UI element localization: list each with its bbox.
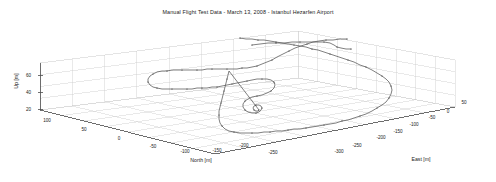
east-tick-label: 50 [461, 100, 467, 105]
trajectory-marker [241, 67, 242, 68]
floor-grid-line [201, 90, 365, 125]
north-tick-label: 100 [43, 118, 51, 123]
trajectory-marker [171, 88, 172, 89]
trajectory-marker [347, 59, 348, 60]
trajectory-marker [365, 66, 366, 67]
east-tick-label: -300 [334, 149, 344, 154]
trajectory-marker [305, 127, 306, 128]
trajectory-marker [201, 87, 202, 88]
trajectory-marker [287, 129, 288, 130]
axis-title-up: Up [m] [13, 59, 19, 103]
trajectory-marker [251, 44, 252, 45]
plot-3d-axes: 100500-50-100-150-200-250-300-250-200-15… [0, 0, 496, 182]
north-tick-label: 50 [81, 127, 87, 132]
trajectory-marker [341, 120, 342, 121]
up-tick-label: 60 [26, 73, 32, 78]
trajectory-marker [346, 38, 347, 39]
axis-title-north: North [m] [165, 157, 237, 163]
tick-labels: 100500-50-100-150-200-250-300-250-200-15… [26, 73, 467, 155]
trajectory-marker [216, 86, 217, 87]
trajectory-marker [255, 112, 256, 113]
trajectory-line [148, 38, 392, 133]
trajectory-marker [323, 124, 324, 125]
trajectory-marker [226, 68, 227, 69]
trajectory-marker [233, 131, 234, 132]
north-tick-label: -100 [180, 149, 190, 154]
trajectory-marker [359, 115, 360, 116]
north-tick-label: 0 [118, 136, 121, 141]
trajectory-marker [255, 104, 256, 105]
east-tick-label: -250 [352, 143, 362, 148]
trajectory-marker [376, 107, 377, 108]
trajectory-marker [390, 85, 391, 86]
trajectory-marker [257, 39, 258, 40]
trajectory-marker [350, 48, 351, 49]
trajectory-marker [152, 73, 153, 74]
trajectory-marker [311, 48, 312, 49]
trajectory-marker [166, 70, 167, 71]
trajectory-marker [288, 50, 289, 51]
trajectory-marker [306, 43, 307, 44]
trajectory-marker [329, 53, 330, 54]
trajectory-marker [251, 132, 252, 133]
trajectory-marker [269, 131, 270, 132]
trajectory-marker [299, 41, 300, 42]
trajectory-marker [261, 78, 262, 79]
grid-lines [40, 31, 455, 154]
east-tick-label: 0 [447, 109, 450, 114]
trajectory-marker [325, 39, 326, 40]
east-tick-label: -150 [393, 129, 403, 134]
north-tick-label: -150 [212, 148, 222, 153]
trajectory-marker [381, 75, 382, 76]
trajectory-marker [181, 69, 182, 70]
east-tick-label: -200 [376, 135, 386, 140]
flight-trajectory [148, 38, 392, 133]
trajectory-marker [223, 90, 224, 91]
floor-grid-line [105, 102, 276, 142]
trajectory-marker [246, 80, 247, 81]
trajectory-marker [258, 109, 259, 110]
north-tick-label: -250 [268, 150, 278, 155]
trajectory-marker [186, 88, 187, 89]
trajectory-marker [273, 81, 274, 82]
trajectory-marker [256, 65, 257, 66]
trajectory-marker [226, 78, 227, 79]
trajectory-marker [336, 46, 337, 47]
trajectory-marker [244, 100, 245, 101]
floor-grid-line [169, 94, 335, 131]
north-axis-spine [40, 110, 215, 154]
trajectory-marker [388, 97, 389, 98]
axis-spines [38, 63, 455, 154]
trajectory-marker [218, 114, 219, 115]
trajectory-marker [323, 41, 324, 42]
trajectory-marker [253, 109, 254, 110]
trajectory-marker [261, 107, 262, 108]
axis-title-east: East [m] [392, 156, 450, 162]
east-tick-label: -100 [409, 122, 419, 127]
trajectory-marker [256, 95, 257, 96]
trajectory-marker [271, 59, 272, 60]
trajectory-marker [231, 83, 232, 84]
up-tick-label: 20 [26, 107, 32, 112]
trajectory-marker [156, 87, 157, 88]
trajectory-marker [147, 81, 148, 82]
trajectory-marker [211, 68, 212, 69]
trajectory-markers [147, 37, 391, 133]
trajectory-marker [244, 109, 245, 110]
trajectory-marker [239, 37, 240, 38]
north-tick-label: -50 [150, 144, 157, 149]
up-tick-label: 40 [26, 90, 32, 95]
trajectory-marker [196, 69, 197, 70]
east-tick-label: -50 [429, 115, 436, 120]
trajectory-marker [221, 125, 222, 126]
trajectory-marker [220, 102, 221, 103]
north-tick-label: -200 [239, 143, 249, 148]
trajectory-marker [270, 90, 271, 91]
trajectory-marker [293, 44, 294, 45]
trajectory-marker [275, 42, 276, 43]
figure-canvas: Manual Flight Test Data - March 13, 2008… [0, 0, 496, 182]
